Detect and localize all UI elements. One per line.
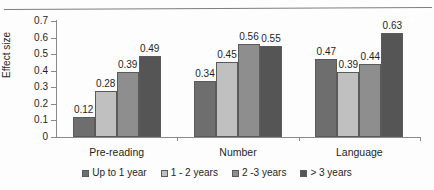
bar-value-label: 0.12 [74, 105, 93, 115]
bar-value-label: 0.56 [239, 32, 258, 42]
legend-swatch-icon [82, 170, 89, 177]
y-axis-tick-label: 0.4 [0, 66, 48, 76]
legend-swatch-icon [232, 170, 239, 177]
legend-item: 2 -3 years [232, 168, 286, 178]
bar [73, 117, 95, 137]
legend-label: Up to 1 year [92, 168, 146, 178]
page-divider-rule [4, 7, 432, 10]
bar-value-label: 0.39 [118, 60, 137, 70]
legend-label: 2 -3 years [242, 168, 286, 178]
legend-swatch-icon [300, 170, 307, 177]
legend-item: > 3 years [300, 168, 351, 178]
legend-label: > 3 years [310, 168, 351, 178]
bar-value-label: 0.47 [317, 47, 336, 57]
x-axis-tick [299, 137, 300, 141]
x-axis-line [56, 137, 420, 138]
bar [139, 56, 161, 137]
y-axis-tick-label: 0.5 [0, 49, 48, 59]
x-axis-tick [420, 137, 421, 141]
bar-value-label: 0.39 [339, 60, 358, 70]
legend-swatch-icon [161, 170, 168, 177]
y-axis-tick-label: 0.3 [0, 82, 48, 92]
bar-value-label: 0.49 [140, 44, 159, 54]
plot-area: 0.120.280.390.490.340.450.560.550.470.39… [56, 21, 420, 137]
x-axis-category-label: Language [336, 147, 383, 158]
bar [359, 64, 381, 137]
bar [216, 62, 238, 137]
chart-legend: Up to 1 year1 - 2 years2 -3 years> 3 yea… [0, 168, 434, 178]
chart-figure: Effect size 00.10.20.30.40.50.60.7 0.120… [0, 0, 434, 190]
x-axis-category-label: Number [219, 147, 256, 158]
y-axis-tick-label: 0.7 [0, 16, 48, 26]
bar-value-label: 0.55 [261, 34, 280, 44]
bar [337, 72, 359, 137]
y-axis-tick [51, 137, 56, 138]
y-axis-tick-label: 0.1 [0, 115, 48, 125]
y-axis-tick-label: 0 [0, 132, 48, 142]
bar [95, 91, 117, 137]
bar [117, 72, 139, 137]
bar-value-label: 0.45 [217, 50, 236, 60]
legend-item: 1 - 2 years [161, 168, 218, 178]
x-axis-category-label: Pre-reading [89, 147, 144, 158]
y-axis-tick-label: 0.6 [0, 33, 48, 43]
bar-value-label: 0.44 [361, 52, 380, 62]
bar [238, 44, 260, 137]
legend-item: Up to 1 year [82, 168, 146, 178]
bar [381, 33, 403, 137]
bar [315, 59, 337, 137]
legend-label: 1 - 2 years [171, 168, 218, 178]
y-axis-tick-label: 0.2 [0, 99, 48, 109]
bar [194, 81, 216, 137]
x-axis-tick [177, 137, 178, 141]
bar-value-label: 0.34 [195, 69, 214, 79]
bar-value-label: 0.63 [383, 21, 402, 31]
bar-value-label: 0.28 [96, 79, 115, 89]
bar [260, 46, 282, 137]
